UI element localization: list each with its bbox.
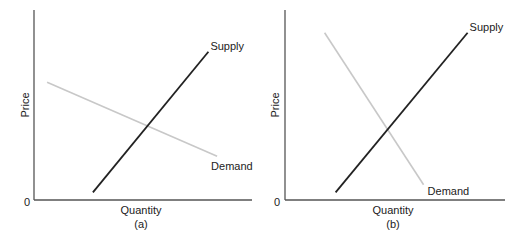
supply-line [93,52,208,193]
supply-demand-figure: 0 Price Quantity (a) DemandSupply 0 Pric… [0,0,519,242]
supply-label: Supply [210,40,244,52]
demand-label: Demand [428,185,470,197]
supply-label: Supply [470,21,504,33]
demand-line [325,33,424,185]
panel-a: 0 Price Quantity (a) DemandSupply [19,10,253,230]
demand-label: Demand [211,160,253,172]
series-layer: DemandSupply [325,21,504,197]
x-axis-label: Quantity [121,204,162,216]
y-axis-label: Price [19,92,31,117]
panel-label: (b) [386,218,399,230]
series-layer: DemandSupply [47,40,253,193]
panel-b: 0 Price Quantity (b) DemandSupply [269,10,505,230]
panel-label: (a) [134,218,147,230]
supply-line [336,33,468,193]
origin-label: 0 [274,196,280,208]
y-axis-label: Price [269,92,281,117]
origin-label: 0 [24,196,30,208]
x-axis-label: Quantity [373,204,414,216]
